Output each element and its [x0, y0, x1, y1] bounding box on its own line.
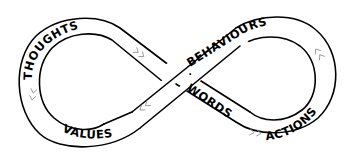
infinity-loop-diagram: THOUGHTS VALUES BEHAVIOURS WORDS ACTIONS [0, 0, 355, 158]
right-loop-inner-edge [240, 37, 315, 120]
